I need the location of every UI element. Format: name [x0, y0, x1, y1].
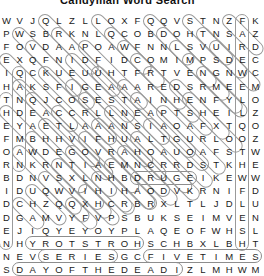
grid-cell[interactable]: I: [0, 66, 13, 79]
grid-cell[interactable]: J: [39, 93, 52, 106]
grid-cell[interactable]: V: [26, 250, 39, 263]
grid-cell[interactable]: H: [39, 132, 52, 145]
grid-cell[interactable]: W: [210, 224, 223, 237]
grid-cell[interactable]: M: [210, 263, 223, 276]
grid-cell[interactable]: S: [39, 250, 52, 263]
grid-cell[interactable]: M: [157, 53, 170, 66]
grid-cell[interactable]: A: [26, 263, 39, 276]
grid-cell[interactable]: A: [183, 119, 196, 132]
grid-cell[interactable]: C: [105, 197, 118, 210]
grid-cell[interactable]: N: [79, 27, 92, 40]
grid-cell[interactable]: A: [131, 132, 144, 145]
grid-cell[interactable]: S: [249, 250, 262, 263]
grid-cell[interactable]: W: [236, 66, 249, 79]
grid-cell[interactable]: D: [79, 53, 92, 66]
grid-cell[interactable]: H: [183, 27, 196, 40]
grid-cell[interactable]: E: [236, 80, 249, 93]
grid-cell[interactable]: S: [144, 237, 157, 250]
grid-cell[interactable]: T: [197, 250, 210, 263]
grid-cell[interactable]: Y: [26, 237, 39, 250]
grid-cell[interactable]: C: [144, 158, 157, 171]
grid-cell[interactable]: T: [236, 145, 249, 158]
grid-cell[interactable]: D: [39, 145, 52, 158]
grid-cell[interactable]: T: [79, 263, 92, 276]
grid-cell[interactable]: H: [105, 171, 118, 184]
grid-cell[interactable]: C: [52, 93, 65, 106]
grid-cell[interactable]: E: [92, 250, 105, 263]
grid-cell[interactable]: S: [26, 27, 39, 40]
grid-cell[interactable]: Z: [249, 27, 262, 40]
grid-cell[interactable]: E: [170, 224, 183, 237]
grid-cell[interactable]: X: [197, 237, 210, 250]
grid-cell[interactable]: C: [249, 53, 262, 66]
grid-cell[interactable]: G: [79, 80, 92, 93]
grid-cell[interactable]: E: [92, 93, 105, 106]
grid-cell[interactable]: H: [236, 237, 249, 250]
grid-cell[interactable]: L: [92, 106, 105, 119]
grid-cell[interactable]: K: [183, 184, 196, 197]
grid-cell[interactable]: B: [131, 211, 144, 224]
grid-cell[interactable]: I: [79, 250, 92, 263]
grid-cell[interactable]: I: [144, 119, 157, 132]
grid-cell[interactable]: O: [183, 224, 196, 237]
grid-cell[interactable]: M: [210, 211, 223, 224]
grid-cell[interactable]: U: [210, 40, 223, 53]
grid-cell[interactable]: Q: [105, 27, 118, 40]
grid-cell[interactable]: F: [131, 66, 144, 79]
grid-cell[interactable]: U: [144, 211, 157, 224]
grid-cell[interactable]: W: [52, 184, 65, 197]
grid-cell[interactable]: I: [79, 132, 92, 145]
grid-cell[interactable]: A: [144, 263, 157, 276]
grid-cell[interactable]: A: [157, 119, 170, 132]
grid-cell[interactable]: I: [66, 53, 79, 66]
letter-grid[interactable]: WVJQLZLLOXFQQVSTNZFKPWSBRKNLQCOBDOHTNSAZ…: [0, 14, 255, 272]
grid-cell[interactable]: L: [170, 40, 183, 53]
grid-cell[interactable]: Y: [39, 263, 52, 276]
grid-cell[interactable]: S: [236, 224, 249, 237]
grid-cell[interactable]: M: [39, 211, 52, 224]
grid-cell[interactable]: D: [170, 80, 183, 93]
grid-cell[interactable]: N: [223, 66, 236, 79]
grid-cell[interactable]: D: [157, 184, 170, 197]
grid-cell[interactable]: T: [92, 237, 105, 250]
grid-cell[interactable]: V: [26, 40, 39, 53]
grid-cell[interactable]: O: [92, 40, 105, 53]
grid-cell[interactable]: T: [157, 132, 170, 145]
grid-cell[interactable]: I: [170, 53, 183, 66]
grid-cell[interactable]: H: [0, 80, 13, 93]
grid-cell[interactable]: L: [52, 14, 65, 27]
grid-cell[interactable]: A: [79, 119, 92, 132]
grid-cell[interactable]: R: [79, 106, 92, 119]
grid-cell[interactable]: A: [13, 80, 26, 93]
grid-cell[interactable]: R: [52, 27, 65, 40]
grid-cell[interactable]: O: [0, 145, 13, 158]
grid-cell[interactable]: C: [26, 66, 39, 79]
grid-cell[interactable]: R: [144, 197, 157, 210]
grid-cell[interactable]: E: [92, 80, 105, 93]
grid-cell[interactable]: O: [223, 132, 236, 145]
grid-cell[interactable]: B: [118, 171, 131, 184]
grid-cell[interactable]: Q: [52, 197, 65, 210]
grid-cell[interactable]: A: [26, 211, 39, 224]
grid-cell[interactable]: E: [183, 171, 196, 184]
grid-cell[interactable]: P: [79, 40, 92, 53]
grid-cell[interactable]: Y: [223, 93, 236, 106]
grid-cell[interactable]: L: [236, 197, 249, 210]
grid-cell[interactable]: A: [105, 40, 118, 53]
grid-cell[interactable]: M: [118, 158, 131, 171]
grid-cell[interactable]: I: [223, 40, 236, 53]
grid-cell[interactable]: C: [131, 53, 144, 66]
grid-cell[interactable]: Q: [66, 197, 79, 210]
grid-cell[interactable]: C: [52, 106, 65, 119]
grid-cell[interactable]: E: [236, 211, 249, 224]
grid-cell[interactable]: H: [92, 184, 105, 197]
grid-cell[interactable]: L: [131, 224, 144, 237]
grid-cell[interactable]: F: [92, 53, 105, 66]
grid-cell[interactable]: R: [157, 158, 170, 171]
grid-cell[interactable]: M: [210, 80, 223, 93]
grid-cell[interactable]: K: [223, 158, 236, 171]
grid-cell[interactable]: N: [197, 93, 210, 106]
grid-cell[interactable]: D: [39, 40, 52, 53]
grid-cell[interactable]: D: [249, 40, 262, 53]
grid-cell[interactable]: W: [118, 40, 131, 53]
